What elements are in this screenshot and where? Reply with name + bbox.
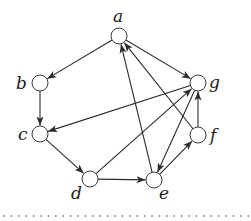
edges-layer	[40, 40, 198, 180]
node-label: b	[16, 73, 27, 93]
node-label: e	[159, 183, 169, 203]
node-c: c	[18, 124, 48, 144]
node-label: g	[209, 72, 220, 92]
directed-graph-diagram: abcdefg	[0, 0, 251, 221]
edge-a-to-g	[126, 40, 191, 79]
node-f: f	[190, 125, 219, 145]
node-g: g	[190, 72, 220, 92]
node-label: a	[113, 6, 123, 26]
node-circle-icon	[190, 127, 206, 143]
edge-a-to-b	[47, 40, 112, 79]
node-circle-icon	[82, 171, 98, 187]
nodes-layer: abcdefg	[16, 6, 220, 203]
node-circle-icon	[190, 75, 206, 91]
node-label: c	[18, 124, 28, 144]
node-e: e	[146, 172, 169, 203]
node-circle-icon	[32, 126, 48, 142]
node-label: f	[208, 125, 219, 145]
node-d: d	[71, 171, 98, 203]
edge-d-to-g	[96, 89, 192, 174]
node-b: b	[16, 73, 48, 93]
node-circle-icon	[32, 75, 48, 91]
edge-e-to-a	[121, 44, 152, 172]
node-label: d	[71, 183, 82, 203]
node-circle-icon	[111, 28, 127, 44]
edge-c-to-d	[46, 139, 84, 173]
edge-d-to-e	[98, 179, 146, 180]
node-a: a	[111, 6, 127, 44]
